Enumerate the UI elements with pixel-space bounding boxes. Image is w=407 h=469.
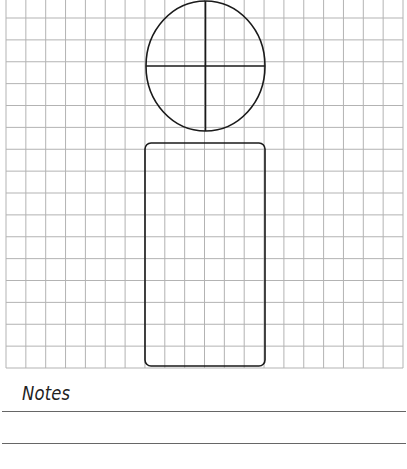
notes-heading: Notes: [22, 381, 70, 405]
notes-line-2: [2, 443, 406, 444]
grid: [6, 0, 403, 368]
worksheet: Notes: [0, 0, 407, 469]
notes-line-1: [2, 411, 406, 412]
head-circle: [146, 1, 265, 131]
